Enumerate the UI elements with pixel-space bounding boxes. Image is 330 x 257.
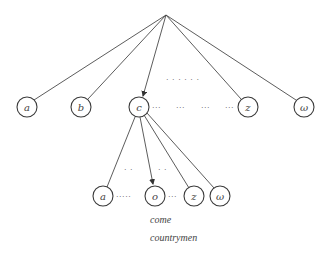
svg-text:o: o — [152, 191, 158, 202]
node-omega: ω — [294, 97, 314, 117]
ellipsis-bottom-right: · · — [158, 165, 167, 174]
svg-text:···: ··· — [201, 103, 210, 112]
ellipsis-o-to-z: ··· — [168, 192, 177, 201]
node-c: c — [129, 97, 149, 117]
node-b: b — [71, 97, 91, 117]
trie-diagram: · · · · · · a b c z ω ··· ··· ··· ··· · … — [0, 0, 330, 257]
svg-text:b: b — [78, 102, 84, 113]
edge-c-a — [107, 117, 135, 187]
svg-text:z: z — [190, 191, 197, 202]
node-child-o: o — [145, 186, 165, 206]
svg-text:a: a — [24, 102, 30, 113]
svg-text:ω: ω — [216, 191, 224, 202]
ellipsis-top: · · · · · · — [166, 75, 199, 84]
node-child-z: z — [184, 186, 204, 206]
edge-c-z — [144, 115, 189, 188]
node-a: a — [17, 97, 37, 117]
ellipsis-c-to-z: ··· ··· ··· ··· — [152, 103, 234, 112]
svg-text:a: a — [100, 191, 106, 202]
node-child-omega: ω — [210, 186, 230, 206]
svg-text:···: ··· — [225, 103, 234, 112]
node-child-a: a — [93, 186, 113, 206]
edge-root-a — [34, 15, 166, 100]
ellipsis-a-to-o: ····· — [116, 192, 131, 201]
word-countrymen: countrymen — [150, 232, 197, 243]
svg-text:ω: ω — [300, 102, 308, 113]
word-come: come — [150, 214, 172, 225]
node-z: z — [238, 97, 258, 117]
svg-text:z: z — [244, 102, 251, 113]
bottom-row: a ····· o ··· z ω — [93, 186, 230, 206]
svg-text:···: ··· — [152, 103, 161, 112]
root-edges — [34, 15, 296, 100]
top-row: a b c z ω — [17, 97, 314, 117]
svg-text:c: c — [136, 102, 142, 113]
svg-text:···: ··· — [176, 103, 185, 112]
c-child-edges — [107, 113, 214, 188]
ellipsis-bottom-left: · · — [124, 165, 133, 174]
edge-c-omega — [147, 113, 214, 188]
